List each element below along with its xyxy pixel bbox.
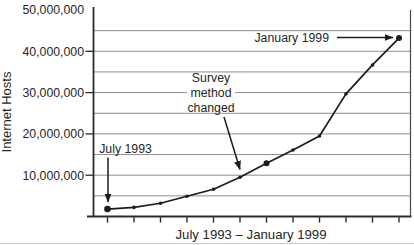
annotation-january-1999: January 1999 [254,31,329,45]
data-point [396,35,402,41]
data-point [132,206,136,210]
y-tick-label: 50,000,000 [22,3,84,17]
data-point [344,92,348,96]
y-tick-label: 40,000,000 [22,45,84,59]
page-bottom-rule [0,243,414,244]
annotation-survey-method-line-2: method [190,86,231,100]
data-point [238,175,242,179]
x-axis-title: July 1993 – January 1999 [175,227,326,242]
data-point [159,201,163,205]
internet-hosts-growth-chart: 50,000,00040,000,00030,000,00020,000,000… [0,0,414,245]
series-layer [104,35,402,212]
annotation-july-1993: July 1993 [99,142,152,156]
y-tick-label: 10,000,000 [22,169,84,183]
y-tick-label: 30,000,000 [22,86,84,100]
data-point [318,134,322,138]
annotation-survey-method-line-1: Survey [192,71,231,85]
data-point [291,148,295,152]
y-tick-label: 20,000,000 [22,127,84,141]
chart-canvas: 50,000,00040,000,00030,000,00020,000,000… [0,0,414,245]
data-point [212,187,216,191]
annotation-arrow-diagonal-icon [224,117,240,170]
data-point [264,160,270,166]
series-line [108,38,400,209]
data-point [104,206,111,213]
annotation-layer: July 1993 Survey method changed January … [99,31,393,203]
data-point [185,194,189,198]
y-axis-title: Internet Hosts [0,71,14,152]
data-point [371,63,375,67]
annotation-survey-method-line-3: changed [187,101,234,115]
